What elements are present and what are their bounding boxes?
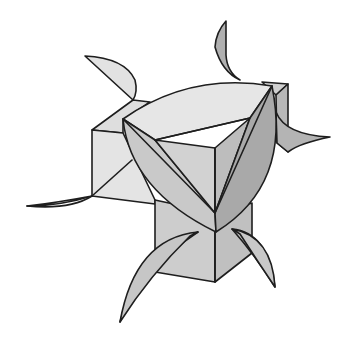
cube-lune-diagram: [0, 0, 347, 344]
upper-left-petal: [85, 56, 136, 100]
diagram-canvas: [0, 0, 347, 344]
top-spike-petal: [215, 21, 240, 80]
